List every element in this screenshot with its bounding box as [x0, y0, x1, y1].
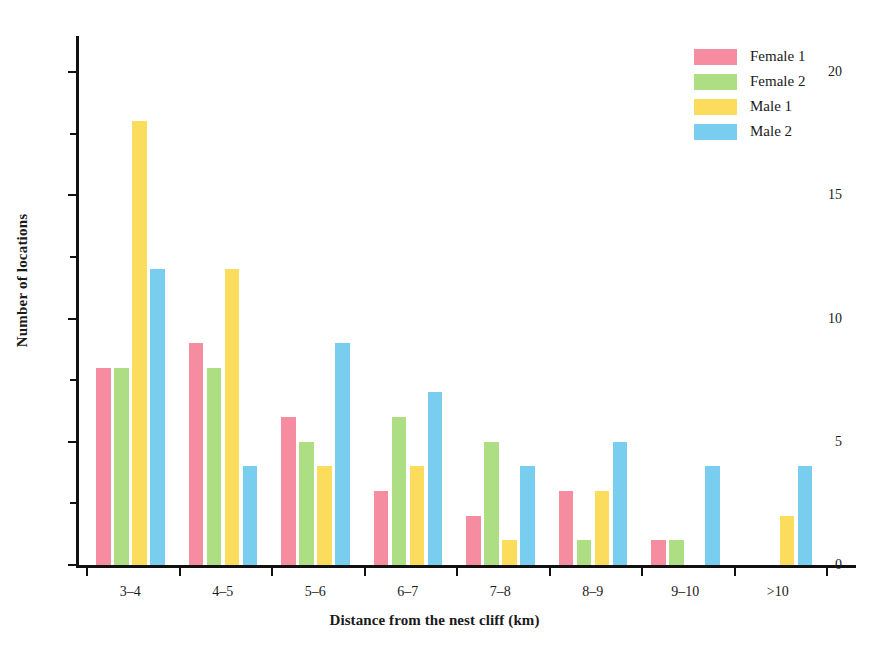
legend-swatch-icon: [694, 99, 737, 115]
x-tick-label-3: 6–7: [397, 584, 418, 600]
y-tick-label-0: 0: [835, 558, 842, 572]
y-tick-15: [68, 194, 76, 196]
x-axis-title: Distance from the nest cliff (km): [0, 612, 869, 629]
x-tick-label-1: 4–5: [212, 584, 233, 600]
x-tick-7: [734, 567, 736, 576]
bar-male-2-2: [335, 343, 350, 565]
x-tick-end: [826, 567, 828, 576]
bar-female-2-1: [207, 368, 222, 565]
x-tick-label-4: 7–8: [490, 584, 511, 600]
y-tick-5: [68, 441, 76, 443]
y-minor-tick-17-5: [70, 133, 76, 135]
legend-item-female-1[interactable]: Female 1: [694, 44, 864, 69]
bar-female-1-1: [189, 343, 204, 565]
x-tick-label-5: 8–9: [582, 584, 603, 600]
bar-female-1-5: [559, 491, 574, 565]
y-minor-tick-12-5: [70, 256, 76, 258]
bar-female-2-6: [669, 540, 684, 565]
legend-item-female-2[interactable]: Female 2: [694, 69, 864, 94]
bar-female-1-3: [374, 491, 389, 565]
x-tick-4: [456, 567, 458, 576]
bar-female-2-5: [577, 540, 592, 565]
bar-male-1-1: [225, 269, 240, 565]
bar-male-2-6: [705, 466, 720, 565]
x-tick-1: [179, 567, 181, 576]
x-axis-line: [76, 565, 856, 568]
y-tick-20: [68, 71, 76, 73]
bar-female-2-2: [299, 442, 314, 565]
bar-male-2-0: [150, 269, 165, 565]
bar-female-1-4: [466, 516, 481, 565]
legend-swatch-icon: [694, 49, 737, 65]
y-minor-tick-7-5: [70, 379, 76, 381]
x-tick-label-7: >10: [767, 584, 789, 600]
x-tick-label-6: 9–10: [671, 584, 699, 600]
y-tick-0: [68, 564, 76, 566]
y-axis-title-text: Number of locations: [15, 213, 32, 347]
legend: Female 1Female 2Male 1Male 2: [694, 44, 864, 144]
legend-item-male-2[interactable]: Male 2: [694, 119, 864, 144]
bar-chart: Number of locations 05101520 3–44–55–66–…: [0, 0, 869, 651]
bar-male-1-7: [780, 516, 795, 565]
bar-male-2-7: [798, 466, 813, 565]
x-axis-title-text: Distance from the nest cliff (km): [329, 612, 539, 628]
bar-male-1-2: [317, 466, 332, 565]
x-tick-0: [86, 567, 88, 576]
x-tick-2: [271, 567, 273, 576]
bar-male-2-1: [243, 466, 258, 565]
x-tick-label-2: 5–6: [305, 584, 326, 600]
bar-female-2-0: [114, 368, 129, 565]
y-tick-label-15: 15: [828, 188, 842, 202]
bar-male-2-4: [520, 466, 535, 565]
bar-male-2-3: [428, 392, 443, 565]
y-axis-title: Number of locations: [8, 0, 38, 560]
bar-female-1-0: [96, 368, 111, 565]
x-tick-6: [641, 567, 643, 576]
legend-swatch-icon: [694, 74, 737, 90]
y-tick-label-10: 10: [828, 312, 842, 326]
legend-item-male-1[interactable]: Male 1: [694, 94, 864, 119]
y-axis-line: [76, 36, 79, 568]
bar-male-1-4: [502, 540, 517, 565]
bar-female-2-3: [392, 417, 407, 565]
legend-swatch-icon: [694, 124, 737, 140]
x-tick-label-0: 3–4: [120, 584, 141, 600]
bar-male-1-0: [132, 121, 147, 565]
bar-male-2-5: [613, 442, 628, 565]
bar-female-1-2: [281, 417, 296, 565]
y-tick-label-5: 5: [835, 435, 842, 449]
legend-label: Male 2: [750, 123, 792, 140]
y-tick-10: [68, 318, 76, 320]
y-minor-tick-2-5: [70, 502, 76, 504]
legend-label: Female 2: [750, 73, 805, 90]
bar-male-1-3: [410, 466, 425, 565]
legend-label: Female 1: [750, 48, 805, 65]
bar-female-1-6: [651, 540, 666, 565]
bar-female-2-4: [484, 442, 499, 565]
bar-male-1-5: [595, 491, 610, 565]
x-tick-3: [364, 567, 366, 576]
x-tick-5: [549, 567, 551, 576]
legend-label: Male 1: [750, 98, 792, 115]
